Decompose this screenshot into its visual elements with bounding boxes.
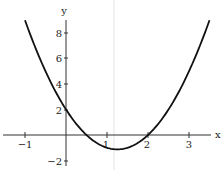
y-tick-label: 4 <box>56 79 62 90</box>
x-tick-label: 2 <box>144 139 150 150</box>
x-tick-label: 3 <box>186 139 192 150</box>
x-axis-label: x <box>215 129 221 140</box>
y-tick-label: −2 <box>47 156 62 167</box>
y-tick-label: 2 <box>56 105 62 116</box>
y-tick-label: 8 <box>56 28 62 39</box>
y-axis-label: y <box>60 5 67 16</box>
parabola-curve <box>25 20 210 149</box>
x-tick-label: −1 <box>18 139 33 150</box>
y-tick-label: 6 <box>56 53 62 64</box>
plot-canvas: −1 1 2 3 8 6 4 2 −2 x y <box>0 0 221 170</box>
